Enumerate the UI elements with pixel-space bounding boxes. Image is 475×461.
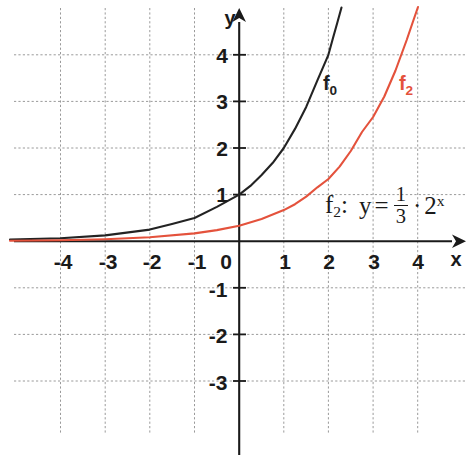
- formula-multiplication-dot: ·: [413, 192, 421, 220]
- y-tick-label-1: 1: [216, 184, 228, 205]
- x-tick-label-3: 3: [368, 251, 380, 272]
- y-tick-label-2: 2: [216, 138, 228, 159]
- formula-function-name: f2:: [325, 191, 348, 221]
- curve-f0: [10, 8, 342, 240]
- formula-equals: =: [375, 192, 389, 220]
- x-axis-label: x: [450, 248, 461, 271]
- curve-label-f0-subscript: 0: [330, 83, 338, 98]
- x-tick-label-1: 1: [279, 251, 291, 272]
- x-tick-label-neg4: -4: [54, 251, 73, 272]
- x-tick-label-4: 4: [412, 251, 424, 272]
- formula-fraction: 1 3: [394, 184, 408, 227]
- y-tick-label-neg2: -2: [209, 325, 228, 346]
- formula-annotation: f2: y = 1 3 · 2x: [325, 185, 444, 228]
- curve-label-f0-text: f: [323, 72, 330, 94]
- function-graph-canvas: y x 4 3 2 1 -1 -2 -3 -4 -3 -2 -1 0 1 2 3…: [0, 0, 475, 461]
- curve-label-f2-subscript: 2: [406, 83, 414, 98]
- y-tick-label-3: 3: [216, 91, 228, 112]
- x-tick-label-2: 2: [323, 251, 335, 272]
- formula-base: 2: [424, 192, 437, 219]
- x-tick-label-neg2: -2: [143, 251, 162, 272]
- y-axis-label: y: [224, 7, 235, 30]
- x-tick-label-neg1: -1: [188, 251, 207, 272]
- formula-f-subscript: 2: [333, 204, 341, 221]
- graph-svg: [0, 0, 475, 461]
- formula-fraction-numerator: 1: [394, 184, 408, 205]
- curve-label-f2-text: f: [399, 72, 406, 94]
- formula-power: 2x: [424, 192, 444, 220]
- curve-label-f0: f0: [323, 72, 337, 98]
- y-tick-label-neg3: -3: [209, 372, 228, 393]
- y-axis: [232, 8, 246, 455]
- formula-exponent: x: [437, 192, 445, 209]
- y-tick-label-neg1: -1: [209, 279, 228, 300]
- curve-label-f2: f2: [399, 72, 413, 98]
- x-tick-label-0: 0: [220, 251, 232, 272]
- formula-y-letter: y: [359, 192, 372, 220]
- formula-colon: :: [341, 191, 348, 218]
- x-tick-label-neg3: -3: [99, 251, 118, 272]
- y-tick-label-4: 4: [216, 45, 228, 66]
- formula-fraction-denominator: 3: [394, 205, 408, 227]
